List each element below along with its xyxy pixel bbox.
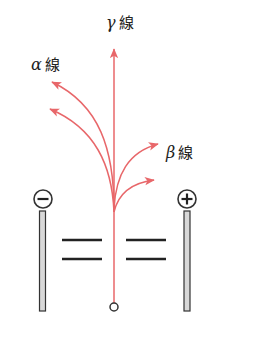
radiation-source xyxy=(110,303,118,311)
beta-label: β線 xyxy=(166,145,193,161)
rays xyxy=(50,49,158,303)
gamma-symbol: γ xyxy=(106,13,116,32)
radiation-deflection-diagram xyxy=(0,0,263,342)
gamma-label-text: 線 xyxy=(119,14,134,32)
alpha-ray-inner xyxy=(50,109,114,212)
alpha-label: α線 xyxy=(31,57,60,73)
beta-label-text: 線 xyxy=(178,144,193,162)
alpha-ray-outer xyxy=(52,82,114,210)
beta-symbol: β xyxy=(166,143,175,162)
positive-plate xyxy=(184,211,190,311)
alpha-symbol: α xyxy=(31,55,42,74)
beta-ray-lower xyxy=(114,180,154,212)
gamma-label: γ線 xyxy=(106,15,134,31)
negative-plate xyxy=(40,211,46,311)
alpha-label-text: 線 xyxy=(45,56,60,74)
negative-electrode xyxy=(34,190,52,311)
positive-electrode xyxy=(178,190,196,311)
